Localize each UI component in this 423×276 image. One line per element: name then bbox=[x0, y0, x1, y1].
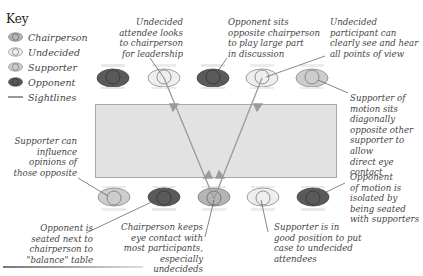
annotation-undecided-looks: Undecided attendee looks to chairperson … bbox=[88, 17, 183, 59]
sightlines bbox=[164, 78, 262, 199]
annotation-undecided-see: Undecided participant can clearly see an… bbox=[330, 17, 423, 59]
annotation-supporter-diagonal: Supporter of motion sits diagonally oppo… bbox=[350, 93, 423, 178]
annotation-supporter-influence: Supporter can influence opinions of thos… bbox=[0, 136, 77, 178]
annotation-opponent-opposite: Opponent sits opposite chairperson to pl… bbox=[228, 17, 328, 59]
annotation-opponent-balance: Opponent is seated next to chairperson t… bbox=[0, 223, 93, 265]
leader-lines bbox=[78, 56, 348, 237]
bottom-rule-divider bbox=[3, 266, 143, 268]
annotation-supporter-position: Supporter is in good position to put cas… bbox=[274, 222, 374, 264]
annotation-opponent-isolated: Opponent of motion is isolated by being … bbox=[350, 172, 423, 225]
